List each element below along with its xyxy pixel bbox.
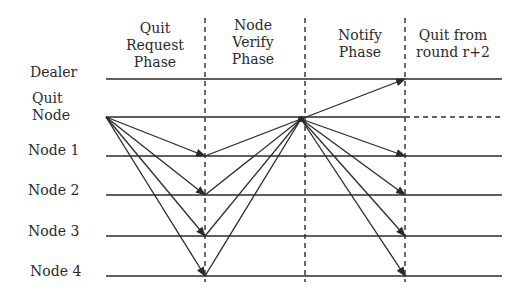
- phase-text: round r+2: [408, 44, 498, 61]
- arrow-quit-to-node4: [106, 117, 205, 276]
- row-label-quit-node: Quit Node: [32, 90, 70, 124]
- phase-text: Phase: [320, 44, 400, 61]
- phase-text: Quit: [115, 20, 195, 37]
- row-text: Node: [32, 107, 70, 124]
- phase-header-notify: Notify Phase: [320, 27, 400, 61]
- arrow-quit-to-node1: [106, 117, 205, 156]
- arrow-hub-to-node2: [301, 119, 405, 195]
- phase-header-quit-from-round: Quit from round r+2: [408, 27, 498, 61]
- arrow-node3-to-hub: [205, 119, 301, 236]
- row-label-node-4: Node 4: [30, 263, 81, 280]
- hub-node: [298, 116, 304, 122]
- phase-text: Request: [115, 37, 195, 54]
- arrow-hub-to-dealer: [301, 79, 405, 119]
- row-label-node-2: Node 2: [28, 182, 79, 199]
- row-label-dealer: Dealer: [30, 64, 77, 81]
- arrow-quit-to-node3: [106, 117, 205, 236]
- arrow-hub-to-node4: [301, 119, 405, 276]
- phase-header-node-verify: Node Verify Phase: [213, 17, 293, 68]
- phase-text: Notify: [320, 27, 400, 44]
- arrow-node2-to-hub: [205, 119, 301, 195]
- row-text: Quit: [32, 90, 70, 107]
- phase-header-quit-request: Quit Request Phase: [115, 20, 195, 71]
- arrow-node4-to-hub: [205, 119, 301, 276]
- row-label-node-1: Node 1: [28, 142, 79, 159]
- row-label-node-3: Node 3: [28, 223, 79, 240]
- phase-text: Node: [213, 17, 293, 34]
- phase-text: Phase: [213, 51, 293, 68]
- phase-text: Verify: [213, 34, 293, 51]
- phase-text: Phase: [115, 54, 195, 71]
- phase-text: Quit from: [408, 27, 498, 44]
- arrow-hub-to-node3: [301, 119, 405, 236]
